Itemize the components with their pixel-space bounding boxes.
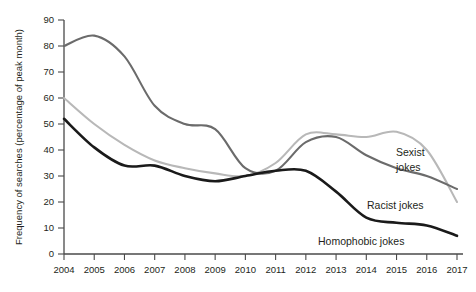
x-tick-label-2009: 2009 [205, 264, 226, 275]
x-tick-label-2007: 2007 [144, 264, 165, 275]
x-tick-label-2014: 2014 [356, 264, 377, 275]
series-label-sexist-line1: Sexist [396, 146, 425, 158]
series-label-homophobic: Homophobic jokes [318, 235, 404, 247]
y-tick-label-10: 10 [43, 222, 54, 233]
x-tick-label-2011: 2011 [265, 264, 285, 275]
x-tick-label-2013: 2013 [326, 264, 347, 275]
series-label-sexist-line2: jokes [395, 161, 421, 173]
y-axis-title: Frequency of searches (percentage of pea… [13, 29, 24, 245]
x-tick-label-2004: 2004 [53, 264, 74, 275]
y-tick-label-20: 20 [43, 196, 54, 207]
x-tick-label-2012: 2012 [295, 264, 316, 275]
x-tick-label-2015: 2015 [386, 264, 407, 275]
x-tick-label-2017: 2017 [446, 264, 467, 275]
series-line-homophobic-jokes [64, 119, 457, 236]
y-tick-label-80: 80 [43, 40, 54, 51]
y-tick-label-90: 90 [43, 14, 54, 25]
x-tick-label-2008: 2008 [174, 264, 195, 275]
x-tick-label-2006: 2006 [114, 264, 135, 275]
x-axis-ticks: 2004200520062007200820092010201120122013… [53, 254, 467, 275]
y-tick-label-50: 50 [43, 118, 54, 129]
y-axis-ticks: 0102030405060708090 [43, 14, 64, 259]
line-chart: 0102030405060708090 20042005200620072008… [0, 0, 476, 292]
series-label-racist: Racist jokes [367, 199, 424, 211]
y-tick-label-70: 70 [43, 66, 54, 77]
x-tick-label-2010: 2010 [235, 264, 256, 275]
x-tick-label-2005: 2005 [84, 264, 105, 275]
y-tick-label-30: 30 [43, 170, 54, 181]
x-tick-label-2016: 2016 [416, 264, 437, 275]
chart-canvas: 0102030405060708090 20042005200620072008… [0, 0, 476, 292]
y-tick-label-40: 40 [43, 144, 54, 155]
y-tick-label-60: 60 [43, 92, 54, 103]
y-tick-label-0: 0 [49, 248, 54, 259]
